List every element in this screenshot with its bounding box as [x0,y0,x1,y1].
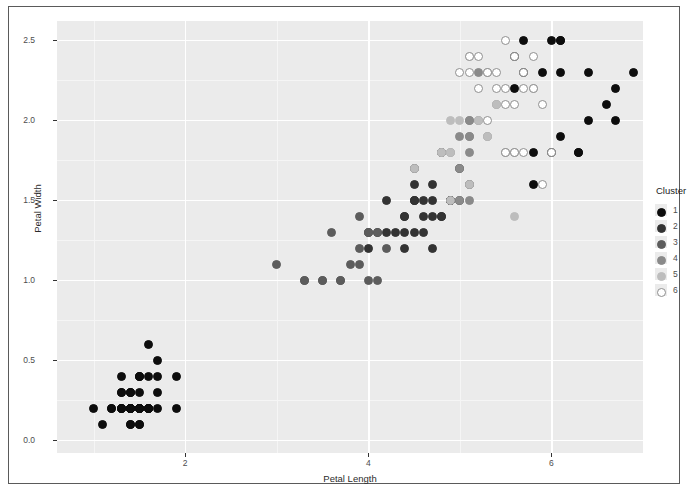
y-tick-label: 1.5 [0,196,35,205]
legend-item: 3 [655,234,688,250]
data-point [300,276,309,285]
gridline-x-major [368,21,369,453]
data-point [336,276,345,285]
data-point [364,228,373,237]
legend-items: 123456 [655,202,688,298]
data-point [538,68,547,77]
x-tick-mark [551,453,552,457]
data-point [419,196,428,205]
data-point [346,260,355,269]
legend-item: 2 [655,218,688,234]
data-point [629,68,638,77]
data-point [272,260,281,269]
data-point [529,84,538,93]
gridline-x-minor [460,21,461,453]
data-point [602,100,611,109]
legend-key-swatch [655,220,667,232]
data-point [584,68,593,77]
legend-item: 1 [655,202,688,218]
data-point [574,148,583,157]
y-tick-mark [53,120,57,121]
data-point [446,148,455,157]
data-point [465,180,474,189]
x-tick-mark [185,453,186,457]
y-tick-mark [53,360,57,361]
data-point [465,132,474,141]
x-tick-label: 4 [348,459,388,468]
legend-label: 3 [673,237,678,247]
data-point [135,420,144,429]
data-point [611,84,620,93]
data-point [492,100,501,109]
x-tick-label: 2 [165,459,205,468]
y-tick-mark [53,40,57,41]
legend-key-swatch [655,284,667,296]
data-point [501,36,510,45]
data-point [153,372,162,381]
gridline-x-minor [277,21,278,453]
legend-key-swatch [655,268,667,280]
data-point [172,404,181,413]
legend: Cluster 123456 [655,185,688,298]
data-point [465,52,474,61]
legend-key-swatch [655,236,667,248]
y-tick-mark [53,280,57,281]
data-point [419,212,428,221]
data-point [465,148,474,157]
y-tick-label: 2.0 [0,116,35,125]
legend-label: 1 [673,205,678,215]
data-point [465,116,474,125]
data-point [172,372,181,381]
data-point [492,68,501,77]
data-point [373,276,382,285]
data-point [98,420,107,429]
data-point [355,260,364,269]
data-point [510,84,519,93]
data-point [107,404,116,413]
data-point [483,68,492,77]
data-point [474,52,483,61]
data-point [144,404,153,413]
legend-key-swatch [655,252,667,264]
data-point [455,196,464,205]
data-point [428,196,437,205]
data-point [446,196,455,205]
data-point [538,100,547,109]
x-axis-label: Petal Length [57,473,643,484]
scatter-plot-figure: 0.00.51.01.52.02.5246 Petal Length Petal… [0,0,688,497]
data-point [446,116,455,125]
gridline-x-major [551,21,552,453]
data-point [483,116,492,125]
y-tick-label: 0.0 [0,436,35,445]
legend-label: 6 [673,285,678,295]
data-point [318,276,327,285]
data-point [501,100,510,109]
gridline-y-major [57,120,643,121]
data-point [153,404,162,413]
data-point [410,228,419,237]
data-point [455,116,464,125]
data-point [410,180,419,189]
data-point [519,148,528,157]
data-point [465,68,474,77]
data-point [510,212,519,221]
legend-label: 5 [673,269,678,279]
data-point [474,84,483,93]
data-point [126,388,135,397]
data-point [364,276,373,285]
data-point [556,68,565,77]
data-point [501,84,510,93]
legend-marker [657,224,666,233]
data-point [428,244,437,253]
data-point [410,196,419,205]
data-point [419,228,428,237]
data-point [126,420,135,429]
plot-frame: 0.00.51.01.52.02.5246 Petal Length Petal… [8,6,680,484]
data-point [501,148,510,157]
data-point [144,340,153,349]
data-point [510,52,519,61]
gridline-y-minor [57,160,643,161]
data-point [529,180,538,189]
data-point [474,68,483,77]
legend-key-swatch [655,204,667,216]
